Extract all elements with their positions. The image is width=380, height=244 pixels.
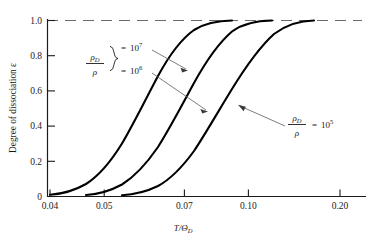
right-fraction-numerator-subscript: D (296, 117, 302, 124)
right-fraction-denominator: ρ (294, 128, 300, 138)
chart-svg: 1.0 0.8 0.6 0.4 0.2 0 0.04 0.05 0.07 0.1… (0, 0, 380, 244)
x-tick-label: 0.05 (96, 201, 113, 211)
y-tick-label: 1.0 (30, 16, 42, 26)
legend-entry-2-equals: = (121, 66, 126, 76)
y-axis-title-text: Degree of dissociation ε (8, 63, 18, 153)
legend-fraction-numerator-subscript: D (94, 56, 100, 63)
x-tick-label: 0.20 (332, 201, 349, 211)
x-axis-title-text: T/Θ (174, 223, 189, 233)
right-label-exponent: 5 (330, 118, 333, 125)
right-label-equals: = (312, 120, 317, 130)
y-tick-label: 0.6 (30, 86, 42, 96)
x-tick-label: 0.10 (240, 201, 257, 211)
legend-fraction-denominator: ρ (92, 67, 98, 77)
x-tick-label: 0.07 (176, 201, 193, 211)
legend-entry-1-equals: = (121, 43, 126, 53)
x-tick-label: 0.04 (42, 201, 59, 211)
x-axis-title-subscript: D (187, 227, 193, 234)
chart-figure: 1.0 0.8 0.6 0.4 0.2 0 0.04 0.05 0.07 0.1… (0, 0, 380, 244)
y-axis-title: Degree of dissociation ε (8, 63, 18, 153)
y-tick-label: 0.4 (30, 121, 42, 131)
y-tick-label: 0.8 (30, 51, 42, 61)
y-tick-label: 0.2 (30, 157, 42, 167)
